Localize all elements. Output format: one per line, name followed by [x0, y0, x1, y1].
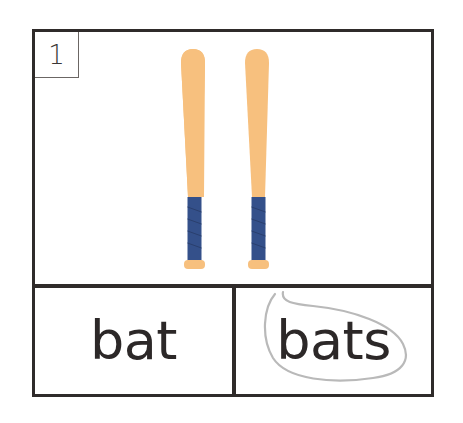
- choice-bats[interactable]: bats: [236, 287, 431, 394]
- baseball-bat-icon: [177, 47, 211, 277]
- baseball-bat-icon: [241, 47, 275, 277]
- choice-bat[interactable]: bat: [35, 287, 232, 394]
- question-number: 1: [35, 32, 79, 78]
- picture-area: [35, 32, 431, 286]
- vertical-divider: [232, 287, 236, 394]
- worksheet-card: 1 bat bats: [32, 29, 434, 397]
